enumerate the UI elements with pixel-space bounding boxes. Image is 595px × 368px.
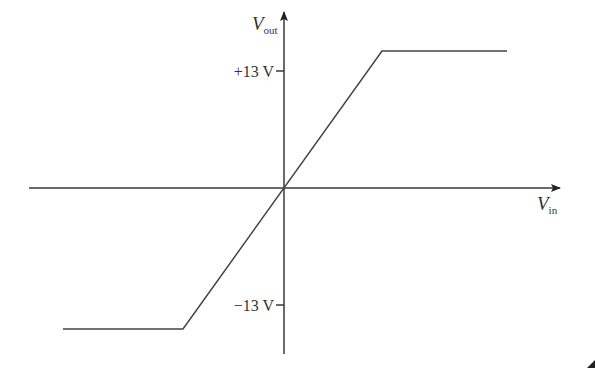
x-axis-label: Vin [537, 193, 558, 216]
y-axis-label: Vout [252, 13, 278, 36]
tick-label-negative: −13 V [234, 297, 275, 314]
transfer-characteristic-diagram: Vout Vin +13 V −13 V [0, 0, 595, 368]
transfer-curve [63, 51, 507, 329]
corner-mark-icon [587, 360, 595, 368]
tick-label-positive: +13 V [234, 63, 275, 80]
